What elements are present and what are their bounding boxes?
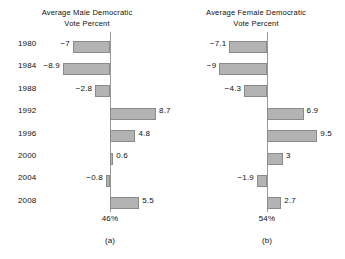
bar-row: 2004−0.8: [0, 170, 175, 192]
bar-row: −4.3: [170, 81, 345, 103]
bar-value-label: −7: [0, 39, 70, 48]
bar: [110, 130, 135, 142]
bar: [257, 175, 267, 187]
bar-row: 3: [170, 148, 345, 170]
year-label: 1996: [18, 129, 58, 138]
panel-a-axis-total: 46%: [90, 214, 130, 223]
bar: [267, 130, 317, 142]
bar-value-label: −7.1: [170, 39, 226, 48]
bar-row: 20085.5: [0, 193, 175, 215]
bar: [244, 85, 267, 97]
bar-value-label: 9.5: [320, 129, 332, 138]
panel-b-plot-area: −7.1−9−4.36.99.53−1.92.7: [170, 32, 345, 212]
bar-value-label: 6.9: [307, 106, 319, 115]
panel-a-title-line1: Average Male Democratic: [7, 8, 167, 19]
bar-value-label: −8.9: [0, 61, 60, 70]
bar-value-label: −4.3: [170, 84, 241, 93]
panel-a-male: Average Male Democratic Vote Percent 198…: [0, 0, 175, 259]
year-label: 2000: [18, 151, 58, 160]
bar-row: −1.9: [170, 170, 345, 192]
bar: [267, 153, 283, 165]
bar-value-label: 8.7: [159, 106, 171, 115]
bar: [106, 175, 110, 187]
bar-value-label: −2.8: [0, 84, 92, 93]
bar: [110, 197, 139, 209]
panel-b-caption: (b): [247, 236, 287, 245]
panel-a-plot-area: 1980−71984−8.91988−2.819928.719964.82000…: [0, 32, 175, 212]
panel-a-title-line2: Vote Percent: [7, 19, 167, 30]
panel-a-caption: (a): [90, 236, 130, 245]
bar-value-label: −9: [170, 61, 216, 70]
bar-value-label: 3: [286, 151, 291, 160]
bar-row: −9: [170, 58, 345, 80]
panel-b-title-line2: Vote Percent: [175, 19, 337, 30]
bar-row: 1984−8.9: [0, 58, 175, 80]
bar-value-label: 4.8: [138, 129, 150, 138]
panel-a-title: Average Male Democratic Vote Percent: [7, 8, 167, 29]
bar-value-label: −1.9: [170, 173, 254, 182]
bar: [95, 85, 110, 97]
bar-row: 9.5: [170, 126, 345, 148]
bar-value-label: 0.6: [116, 151, 128, 160]
panel-b-axis-total: 54%: [247, 214, 287, 223]
bar: [267, 197, 281, 209]
year-label: 2008: [18, 196, 58, 205]
bar: [110, 108, 156, 120]
bar-value-label: 2.7: [284, 196, 296, 205]
bar-row: 1988−2.8: [0, 81, 175, 103]
bar: [63, 63, 110, 75]
bar: [229, 41, 267, 53]
bar-row: 6.9: [170, 103, 345, 125]
bar: [73, 41, 110, 53]
figure-two-panel-bar-charts: Average Male Democratic Vote Percent 198…: [0, 0, 345, 259]
bar-row: 19964.8: [0, 126, 175, 148]
bar-row: 20000.6: [0, 148, 175, 170]
bar-row: −7.1: [170, 36, 345, 58]
panel-b-female: Average Female Democratic Vote Percent −…: [170, 0, 345, 259]
panel-b-title: Average Female Democratic Vote Percent: [175, 8, 337, 29]
bar-row: 1980−7: [0, 36, 175, 58]
bar-value-label: 5.5: [142, 196, 154, 205]
panel-b-title-line1: Average Female Democratic: [175, 8, 337, 19]
bar: [267, 108, 304, 120]
bar-row: 19928.7: [0, 103, 175, 125]
bar-value-label: −0.8: [0, 173, 103, 182]
bar: [110, 153, 113, 165]
bar-row: 2.7: [170, 193, 345, 215]
bar: [219, 63, 267, 75]
year-label: 1992: [18, 106, 58, 115]
